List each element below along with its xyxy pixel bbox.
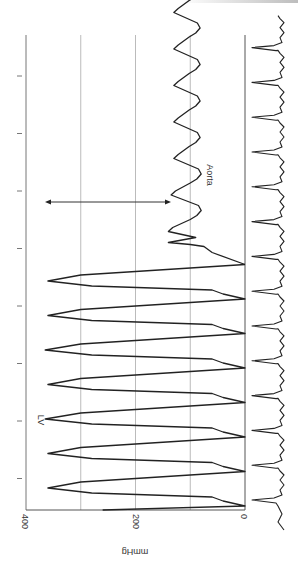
pressure-chart: 400 200 0 mmHg LV Aorta	[0, 0, 298, 566]
time-ticks	[17, 76, 22, 479]
tick-label-0: 0	[239, 514, 249, 519]
aortic-pressure-trace	[168, 0, 245, 265]
arrowhead-left-icon	[45, 200, 51, 205]
arrowhead-right-icon	[165, 200, 171, 205]
ecg-trace	[252, 16, 284, 530]
y-axis-title: mmHg	[122, 547, 149, 557]
gradient-arrow	[45, 200, 171, 205]
lv-label: LV	[36, 415, 46, 425]
tick-label-200: 200	[131, 514, 141, 529]
gridlines	[26, 35, 190, 510]
lv-pressure-trace	[45, 265, 245, 511]
aorta-label: Aorta	[205, 164, 215, 186]
tick-label-400: 400	[20, 514, 30, 529]
